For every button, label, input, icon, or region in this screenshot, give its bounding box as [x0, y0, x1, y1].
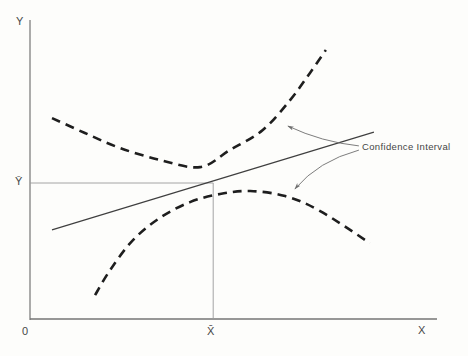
y-mean-label: Ȳ — [15, 176, 22, 187]
confidence-interval-figure: Y Ȳ 0 X̄ X Confidence Interval — [0, 0, 468, 356]
y-axis-label: Y — [16, 16, 23, 27]
leader-to-lower-band — [295, 150, 359, 189]
origin-label: 0 — [22, 326, 28, 337]
leader-to-upper-band — [288, 126, 359, 146]
x-mean-label: X̄ — [207, 326, 214, 337]
chart-canvas — [0, 0, 468, 356]
x-axis-label: X — [418, 325, 425, 336]
lower-confidence-band — [95, 191, 370, 295]
confidence-interval-annotation: Confidence Interval — [362, 142, 451, 152]
upper-confidence-band — [52, 50, 326, 168]
